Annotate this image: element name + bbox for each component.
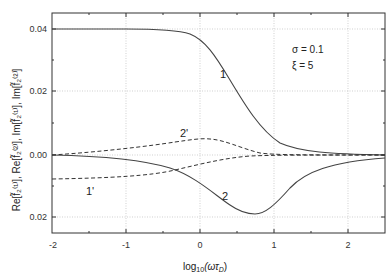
xi-annotation: ξ = 5 xyxy=(292,60,314,72)
y-tick-label: 0.00 xyxy=(29,150,47,160)
curve-2 xyxy=(52,155,385,214)
ticks xyxy=(52,13,385,233)
x-tick-label: -2 xyxy=(49,240,57,250)
plot-frame xyxy=(52,13,385,233)
y-tick-label: 0.02 xyxy=(29,86,47,96)
grid xyxy=(52,13,385,233)
curve-1-prime xyxy=(52,155,385,179)
curve-2-prime-label: 2' xyxy=(180,127,188,139)
chart: 0.04 0.02 0.00 0.02 -2 -1 0 1 2 log10(ωτ… xyxy=(0,0,389,276)
curve-1-label: 1 xyxy=(220,68,226,80)
x-tick-label: 0 xyxy=(197,240,202,250)
curve-2-prime xyxy=(52,139,385,155)
x-tick-label: 1 xyxy=(271,240,276,250)
y-axis-label: Re[f̃₂⁽¹⁾], Re[f̃₂⁽²⁾], Im[f̃₂⁽¹⁾], Im[f… xyxy=(10,68,22,211)
y-tick-label: 0.04 xyxy=(29,24,47,34)
x-tick-label: 2 xyxy=(345,240,350,250)
y-tick-label: 0.02 xyxy=(29,212,47,222)
curve-1-prime-label: 1' xyxy=(86,185,94,197)
curve-1 xyxy=(52,29,385,155)
x-axis-label: log10(ωτD) xyxy=(183,261,227,273)
curve-2-label: 2 xyxy=(222,190,228,202)
x-tick-label: -1 xyxy=(122,240,130,250)
sigma-annotation: σ = 0.1 xyxy=(292,44,324,55)
